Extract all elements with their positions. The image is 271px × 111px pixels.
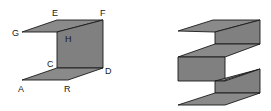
label-g: G bbox=[12, 28, 19, 38]
figure-canvas: E F G H C D A R bbox=[0, 0, 271, 111]
label-c: C bbox=[47, 59, 54, 69]
label-e: E bbox=[52, 8, 58, 18]
label-a: A bbox=[18, 84, 24, 94]
right-middle-front-face bbox=[178, 57, 225, 81]
left-folded-shape: E F G H C D A R bbox=[12, 8, 112, 94]
right-zigzag-shape bbox=[178, 20, 260, 105]
label-f: F bbox=[100, 8, 106, 18]
label-r: R bbox=[64, 84, 71, 94]
label-d: D bbox=[105, 66, 112, 76]
label-h: H bbox=[65, 34, 72, 44]
right-bottom-plate bbox=[178, 93, 260, 105]
left-bottom-plate bbox=[22, 68, 103, 80]
right-middle-plate bbox=[178, 44, 260, 57]
